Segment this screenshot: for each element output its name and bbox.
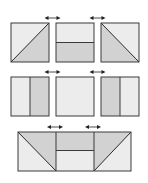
double-arrow-icon: [90, 70, 106, 74]
row-2: [11, 70, 139, 116]
double-arrow-icon: [45, 70, 61, 74]
panel-vertical-right: [101, 77, 139, 116]
panel-combined-strip: [18, 132, 131, 171]
double-arrow-icon: [45, 16, 61, 20]
panel-diagonal-up: [11, 23, 49, 62]
panel-vertical-left: [11, 77, 49, 116]
double-arrow-icon: [47, 125, 63, 129]
panel-horizontal: [56, 23, 94, 62]
row-3: [18, 125, 131, 171]
panel-diagonal-down: [101, 23, 139, 62]
panel-blank: [56, 77, 94, 116]
double-arrow-icon: [85, 125, 101, 129]
panel-diagram: [0, 0, 148, 183]
double-arrow-icon: [90, 16, 106, 20]
row-1: [11, 16, 139, 62]
